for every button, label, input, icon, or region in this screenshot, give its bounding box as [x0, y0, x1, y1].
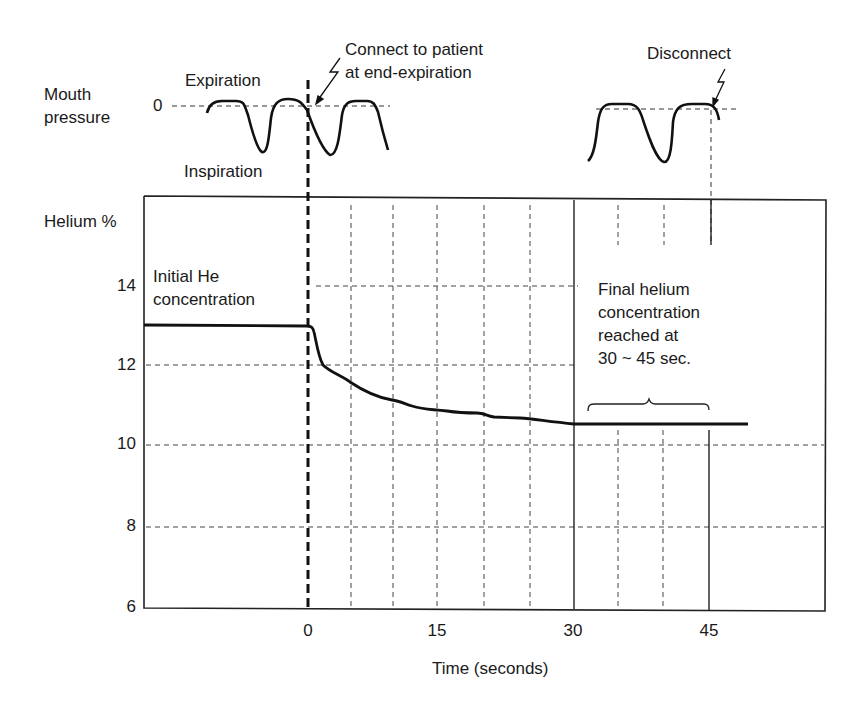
y-tick-14: 14 [96, 276, 136, 296]
horizontal-gridlines [146, 286, 824, 527]
final-range-brace [588, 399, 709, 411]
inspiration-label: Inspiration [184, 161, 262, 182]
mouth-pressure-label-line1: Mouth [44, 84, 91, 105]
connect-arrow-icon [316, 58, 340, 104]
mouth-pressure-label-line2: pressure [44, 107, 110, 128]
initial-concentration-label-line2: concentration [153, 289, 255, 310]
final-concentration-label-line1: Final helium [598, 279, 690, 300]
connect-annotation-line2: at end-expiration [345, 62, 472, 83]
x-tick-30: 30 [553, 621, 593, 641]
y-axis-label: Helium % [44, 211, 117, 232]
x-tick-15: 15 [417, 621, 457, 641]
final-concentration-label-line2: concentration [598, 302, 700, 323]
x-tick-0: 0 [288, 621, 328, 641]
final-concentration-label-line3: reached at [598, 325, 678, 346]
mouth-pressure-zero-line [172, 106, 740, 109]
y-tick-10: 10 [96, 434, 136, 454]
pressure-waveform-left [207, 99, 388, 155]
y-tick-6: 6 [96, 597, 136, 617]
vertical-gridlines [351, 205, 664, 608]
x-axis-label: Time (seconds) [432, 658, 549, 679]
x-tick-45: 45 [689, 621, 729, 641]
disconnect-arrow-icon [713, 69, 725, 106]
initial-concentration-label-line1: Initial He [153, 266, 219, 287]
pressure-waveform-right [588, 104, 719, 162]
y-tick-8: 8 [96, 516, 136, 536]
expiration-label: Expiration [185, 70, 261, 91]
y-tick-12: 12 [96, 355, 136, 375]
final-concentration-label-line4: 30 ~ 45 sec. [598, 348, 691, 369]
disconnect-annotation: Disconnect [647, 43, 731, 64]
connect-annotation-line1: Connect to patient [345, 39, 483, 60]
plot-frame [144, 196, 826, 611]
zero-pressure-label: 0 [153, 95, 162, 116]
